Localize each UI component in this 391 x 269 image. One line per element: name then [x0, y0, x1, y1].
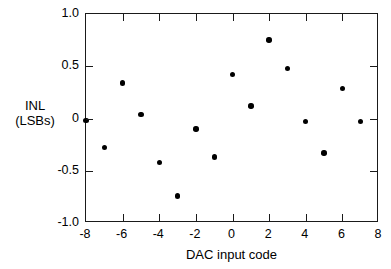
x-axis-tick — [306, 14, 307, 21]
y-tick-label: 0.5 — [39, 59, 79, 72]
x-axis-tick — [342, 214, 343, 221]
x-tick-label: 4 — [290, 228, 320, 241]
x-tick-label: -6 — [107, 228, 137, 241]
x-tick-label: 8 — [363, 228, 391, 241]
data-point — [230, 72, 235, 77]
x-tick-label: 0 — [217, 228, 247, 241]
x-tick-label: -8 — [70, 228, 100, 241]
data-point — [193, 126, 198, 131]
x-axis-tick — [159, 14, 160, 21]
data-point — [303, 119, 308, 124]
x-axis-tick — [123, 14, 124, 21]
y-axis-tick — [370, 119, 377, 120]
y-axis-tick — [86, 66, 93, 67]
x-tick-label: 6 — [326, 228, 356, 241]
data-point — [102, 145, 107, 150]
y-tick-label: -0.5 — [39, 164, 79, 177]
data-point — [266, 37, 271, 42]
y-axis-tick — [370, 66, 377, 67]
x-axis-tick — [233, 214, 234, 221]
x-axis-tick — [196, 14, 197, 21]
data-point — [248, 103, 253, 108]
y-axis-title-line1: INL — [4, 98, 66, 113]
y-axis-title-line2: (LSBs) — [4, 113, 66, 128]
data-point — [212, 154, 217, 159]
data-point — [120, 80, 125, 85]
x-axis-title: DAC input code — [85, 248, 378, 262]
x-axis-tick — [123, 214, 124, 221]
y-axis-tick — [86, 171, 93, 172]
x-tick-label: 2 — [253, 228, 283, 241]
plot-area — [85, 13, 378, 222]
data-point — [321, 150, 326, 155]
x-axis-tick — [306, 214, 307, 221]
x-axis-tick — [342, 14, 343, 21]
data-point — [340, 86, 345, 91]
y-axis-tick — [370, 171, 377, 172]
x-axis-tick — [159, 214, 160, 221]
data-point — [138, 112, 143, 117]
x-tick-label: -2 — [180, 228, 210, 241]
data-point — [175, 193, 180, 198]
inl-scatter-chart: -1.0-0.500.51.0 -8-6-4-202468 INL (LSBs)… — [0, 0, 391, 269]
x-axis-tick — [196, 214, 197, 221]
y-axis-title: INL (LSBs) — [4, 98, 66, 128]
x-axis-tick — [269, 214, 270, 221]
x-tick-label: -4 — [143, 228, 173, 241]
data-point — [285, 66, 290, 71]
y-axis-tick — [86, 119, 93, 120]
x-axis-tick — [269, 14, 270, 21]
data-point — [358, 119, 363, 124]
x-axis-tick — [233, 14, 234, 21]
y-tick-label: 1.0 — [39, 7, 79, 20]
data-point — [157, 160, 162, 165]
